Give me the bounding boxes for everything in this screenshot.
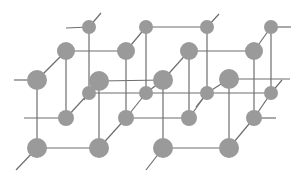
atom-node	[264, 86, 278, 100]
atom-node	[180, 42, 198, 60]
atom-node	[139, 20, 153, 34]
atom-node	[153, 138, 173, 158]
atom-node	[219, 69, 239, 89]
atom-node	[89, 138, 109, 158]
atom-node	[139, 86, 153, 100]
atom-node	[27, 70, 47, 90]
atom-node	[200, 86, 214, 100]
atom-node	[58, 110, 74, 126]
atom-node	[27, 138, 47, 158]
atom-node	[118, 110, 134, 126]
atom-node	[181, 110, 197, 126]
atom-layer	[27, 20, 278, 158]
atom-node	[264, 20, 278, 34]
atom-node	[219, 138, 239, 158]
atom-node	[89, 71, 109, 91]
atom-node	[200, 20, 214, 34]
atom-node	[245, 42, 263, 60]
atom-node	[153, 70, 173, 90]
atom-node	[246, 110, 262, 126]
atom-node	[117, 42, 135, 60]
atom-node	[57, 42, 75, 60]
atom-node	[82, 20, 96, 34]
crystal-lattice-diagram	[0, 0, 307, 182]
